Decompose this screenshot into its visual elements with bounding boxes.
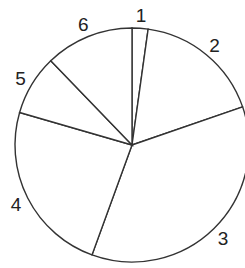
slice-label-2: 2 [209,35,220,56]
slice-label-4: 4 [11,194,22,215]
pie-slices [15,28,245,262]
slice-label-6: 6 [78,14,89,35]
slice-label-5: 5 [15,68,26,89]
slice-label-1: 1 [136,5,147,26]
pie-chart: 123456 [0,0,245,268]
slice-label-3: 3 [218,228,229,249]
